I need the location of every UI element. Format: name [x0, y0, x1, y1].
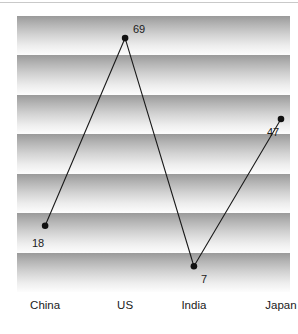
category-label-japan: Japan — [265, 300, 296, 312]
series-markers — [42, 35, 284, 270]
point-value-label-india: 7 — [201, 274, 207, 285]
data-point-marker — [191, 263, 198, 270]
point-value-label-japan: 47 — [267, 127, 279, 138]
point-value-label-china: 18 — [32, 238, 44, 249]
chart-figure: 18 69 7 47 China US India Japan — [0, 0, 298, 334]
category-label-china: China — [30, 300, 60, 312]
data-point-marker — [42, 222, 49, 229]
point-value-label-us: 69 — [133, 24, 145, 35]
data-point-marker — [122, 35, 129, 42]
data-point-marker — [278, 116, 285, 123]
series-polyline — [45, 38, 281, 266]
line-series-svg — [17, 16, 290, 292]
plot-area — [17, 16, 290, 292]
top-divider-rule — [0, 2, 298, 3]
category-label-india: India — [181, 300, 206, 312]
category-label-us: US — [117, 300, 133, 312]
category-axis: China US India Japan — [17, 300, 290, 320]
